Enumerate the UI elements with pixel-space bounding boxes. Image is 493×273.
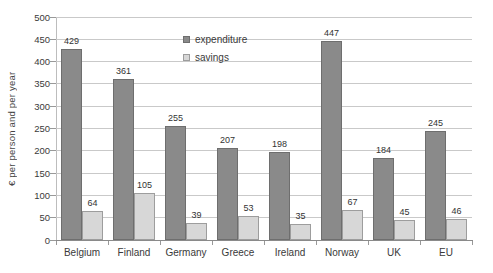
bar-savings-finland bbox=[134, 193, 155, 240]
bar-savings-ireland bbox=[290, 224, 311, 240]
bar-expenditure-ireland bbox=[269, 152, 290, 240]
bar-expenditure-uk bbox=[373, 158, 394, 240]
x-tick-mark-8 bbox=[472, 241, 473, 245]
y-tick-mark-350 bbox=[49, 83, 56, 84]
bar-savings-uk bbox=[394, 220, 415, 240]
y-tick-label-350: 350 bbox=[0, 78, 50, 89]
value-label-savings-norway: 67 bbox=[347, 197, 357, 207]
legend: expenditure savings bbox=[183, 30, 247, 66]
value-label-expenditure-norway: 447 bbox=[324, 28, 339, 38]
x-tick-mark-5 bbox=[316, 241, 317, 245]
y-tick-label-150: 150 bbox=[0, 168, 50, 179]
y-tick-label-250: 250 bbox=[0, 123, 50, 134]
y-tick-label-300: 300 bbox=[0, 101, 50, 112]
legend-item-expenditure: expenditure bbox=[183, 30, 247, 48]
value-label-expenditure-finland: 361 bbox=[116, 66, 131, 76]
y-tick-label-500: 500 bbox=[0, 12, 50, 23]
category-label-greece: Greece bbox=[222, 247, 255, 258]
value-label-savings-belgium: 64 bbox=[87, 198, 97, 208]
category-label-eu: EU bbox=[439, 247, 453, 258]
gridline-450 bbox=[56, 39, 472, 40]
value-label-savings-finland: 105 bbox=[137, 180, 152, 190]
value-label-savings-ireland: 35 bbox=[295, 211, 305, 221]
value-label-expenditure-eu: 245 bbox=[428, 118, 443, 128]
bar-savings-eu bbox=[446, 219, 467, 240]
value-label-expenditure-ireland: 198 bbox=[272, 139, 287, 149]
bar-expenditure-norway bbox=[321, 41, 342, 240]
category-label-germany: Germany bbox=[165, 247, 206, 258]
bar-savings-greece bbox=[238, 216, 259, 240]
value-label-expenditure-greece: 207 bbox=[220, 135, 235, 145]
value-label-expenditure-uk: 184 bbox=[376, 145, 391, 155]
value-label-savings-greece: 53 bbox=[243, 203, 253, 213]
y-tick-label-100: 100 bbox=[0, 190, 50, 201]
x-tick-mark-0 bbox=[56, 241, 57, 245]
plot-area: 4296436110525539207531983544767184452454… bbox=[56, 17, 472, 240]
y-tick-label-400: 400 bbox=[0, 56, 50, 67]
value-label-expenditure-germany: 255 bbox=[168, 113, 183, 123]
category-label-finland: Finland bbox=[118, 247, 151, 258]
gridline-400 bbox=[56, 61, 472, 62]
legend-item-savings: savings bbox=[183, 48, 247, 66]
x-tick-mark-4 bbox=[264, 241, 265, 245]
y-tick-mark-400 bbox=[49, 61, 56, 62]
value-label-savings-germany: 39 bbox=[191, 210, 201, 220]
y-tick-mark-500 bbox=[49, 17, 56, 18]
expenditure-swatch-icon bbox=[183, 36, 190, 43]
y-tick-mark-150 bbox=[49, 173, 56, 174]
category-label-uk: UK bbox=[387, 247, 401, 258]
value-label-savings-uk: 45 bbox=[399, 207, 409, 217]
x-tick-mark-1 bbox=[108, 241, 109, 245]
legend-label-savings: savings bbox=[195, 52, 229, 63]
legend-label-expenditure: expenditure bbox=[195, 34, 247, 45]
y-tick-mark-450 bbox=[49, 39, 56, 40]
category-label-norway: Norway bbox=[325, 247, 359, 258]
bar-expenditure-belgium bbox=[61, 49, 82, 240]
y-tick-mark-50 bbox=[49, 217, 56, 218]
y-tick-label-50: 50 bbox=[0, 212, 50, 223]
bar-savings-norway bbox=[342, 210, 363, 240]
x-tick-mark-2 bbox=[160, 241, 161, 245]
bar-expenditure-germany bbox=[165, 126, 186, 240]
bar-expenditure-finland bbox=[113, 79, 134, 240]
y-tick-label-450: 450 bbox=[0, 34, 50, 45]
category-label-ireland: Ireland bbox=[275, 247, 306, 258]
category-label-belgium: Belgium bbox=[64, 247, 100, 258]
bar-expenditure-eu bbox=[425, 131, 446, 240]
value-label-savings-eu: 46 bbox=[451, 206, 461, 216]
bar-expenditure-greece bbox=[217, 148, 238, 240]
y-tick-mark-100 bbox=[49, 195, 56, 196]
gridline-500 bbox=[56, 17, 472, 18]
value-label-expenditure-belgium: 429 bbox=[64, 36, 79, 46]
x-tick-mark-7 bbox=[420, 241, 421, 245]
y-tick-mark-200 bbox=[49, 150, 56, 151]
y-tick-label-200: 200 bbox=[0, 145, 50, 156]
bar-savings-germany bbox=[186, 223, 207, 240]
x-tick-mark-3 bbox=[212, 241, 213, 245]
bar-chart-figure: € per person and per year 05010015020025… bbox=[0, 0, 493, 273]
savings-swatch-icon bbox=[183, 54, 190, 61]
x-tick-mark-6 bbox=[368, 241, 369, 245]
y-tick-label-0: 0 bbox=[0, 235, 50, 246]
y-tick-mark-300 bbox=[49, 106, 56, 107]
bar-savings-belgium bbox=[82, 211, 103, 240]
y-tick-mark-250 bbox=[49, 128, 56, 129]
y-tick-mark-0 bbox=[49, 240, 56, 241]
